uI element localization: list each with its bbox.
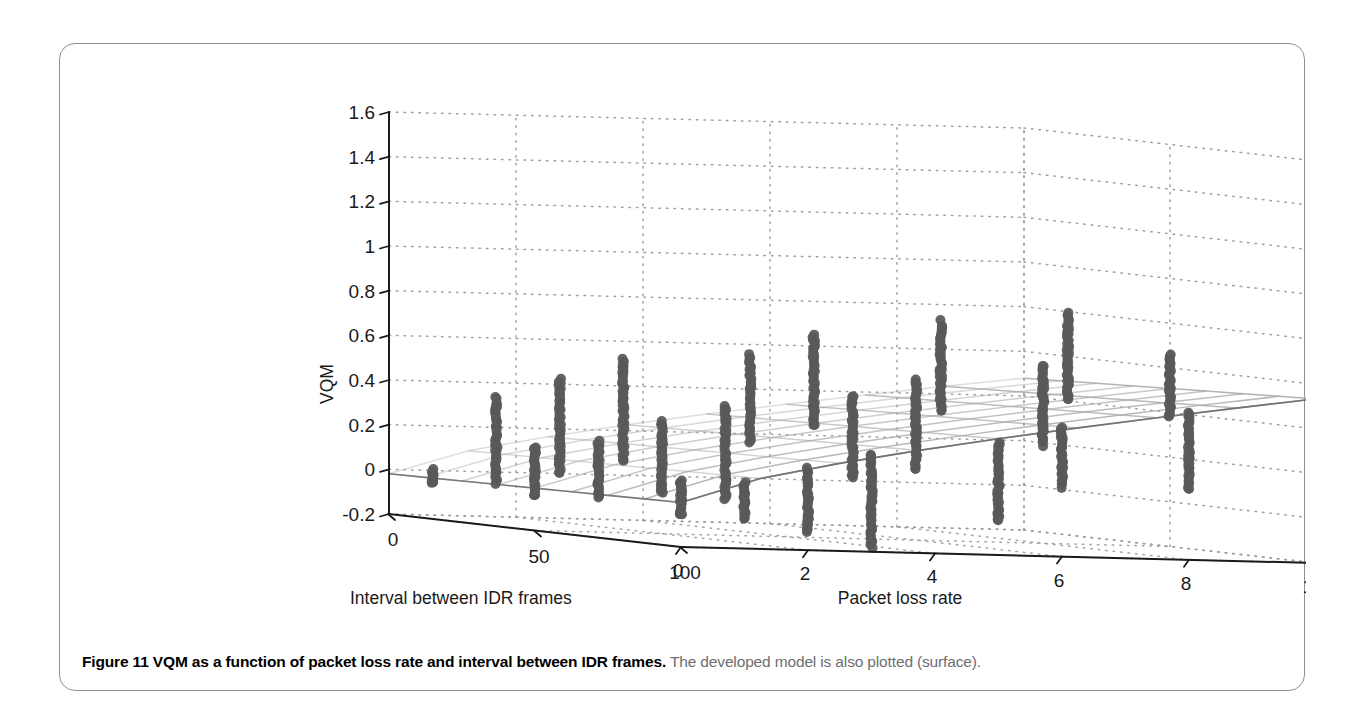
z-tick-label-0: -0.2 (342, 504, 375, 525)
z-tick-label-7: 1.2 (349, 191, 375, 212)
x-tick-label-5: 10 (1302, 576, 1306, 597)
z-tick-label-4: 0.6 (349, 325, 375, 346)
chart-plot-area: -0.200.20.40.60.811.21.41.60501000246810… (60, 44, 1306, 644)
y-axis-title: Interval between IDR frames (350, 588, 572, 608)
z-tick-label-8: 1.4 (349, 147, 376, 168)
z-tick-label-3: 0.4 (349, 370, 376, 391)
x-tick-label-3: 6 (1054, 570, 1065, 591)
figure-page: -0.200.20.40.60.811.21.41.60501000246810… (0, 0, 1369, 720)
figure-caption: Figure 11 VQM as a function of packet lo… (82, 652, 1282, 672)
x-axis-title: Packet loss rate (838, 588, 963, 608)
caption-rest-text: The developed model is also plotted (sur… (666, 653, 981, 670)
vqm-3d-scatter-chart: -0.200.20.40.60.811.21.41.60501000246810… (60, 44, 1306, 644)
chart-axis-lines (389, 112, 1306, 563)
y-tick-label-1: 50 (528, 546, 549, 567)
z-tick-label-6: 1 (364, 236, 375, 257)
z-tick-label-1: 0 (364, 459, 375, 480)
chart-gridlines (389, 112, 1306, 563)
x-tick-label-0: 0 (673, 560, 684, 581)
z-tick-label-9: 1.6 (349, 102, 375, 123)
x-tick-label-2: 4 (927, 566, 938, 587)
y-tick-label-0: 0 (388, 529, 399, 550)
z-tick-label-2: 0.2 (349, 415, 375, 436)
x-tick-label-4: 8 (1181, 573, 1192, 594)
z-tick-label-5: 0.8 (349, 281, 375, 302)
caption-bold-text: Figure 11 VQM as a function of packet lo… (82, 653, 666, 670)
chart-tick-labels: -0.200.20.40.60.811.21.41.60501000246810 (342, 102, 1306, 597)
figure-frame: -0.200.20.40.60.811.21.41.60501000246810… (59, 43, 1305, 691)
z-axis-title: VQM (317, 364, 337, 404)
x-tick-label-1: 2 (800, 563, 811, 584)
scatter-point-cluster (427, 308, 1306, 553)
